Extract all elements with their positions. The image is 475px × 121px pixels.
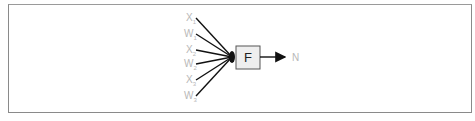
convergence-node (229, 51, 235, 63)
output-label: N (292, 52, 299, 63)
input-label-w3: W3 (184, 90, 197, 103)
input-label-w1: W1 (184, 28, 197, 41)
input-label-x2: X2 (186, 44, 197, 57)
neuron-diagram: X1 W1 X2 W2 X3 W3 F N (0, 0, 475, 121)
input-lines (196, 18, 232, 96)
input-labels: X1 W1 X2 W2 X3 W3 (184, 12, 197, 103)
input-label-w2: W2 (184, 58, 197, 71)
input-label-x3: X3 (186, 74, 197, 87)
function-box-label: F (244, 50, 252, 65)
input-label-x1: X1 (186, 12, 197, 25)
